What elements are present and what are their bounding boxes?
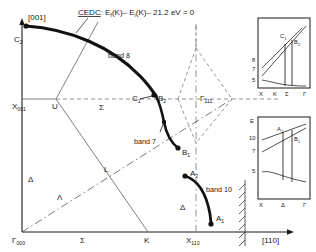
label-lambda: Λ [57,193,63,202]
inset-bottom-band-label-10: 10 [249,135,255,141]
title-k1: (K) [112,8,123,17]
inset-top-band-label-8: 8 [252,57,255,63]
label-band7: band 7 [134,137,156,146]
label-l-point: L [104,165,109,174]
endpoint-c2-dot [23,23,28,28]
inset-bottom-tick-x: X [259,202,263,208]
vertical-axis-label: [001] [28,13,46,22]
label-sigma-mid: Σ [99,103,104,112]
inset-bottom-energy-label: E [250,118,254,124]
title-minus1: – E [123,8,135,17]
inset-bottom-panel [258,117,310,199]
endpoint-a2-dot [182,173,187,178]
horizontal-axis-label: [110] [262,236,279,245]
inset-bottom-tick-delta: Δ [281,202,285,208]
inset-top-band-label-7: 7 [252,66,255,72]
endpoint-b2-dot [151,92,156,97]
inset-top-tick-sigma: Σ [285,91,289,97]
title-rest: : E [101,8,111,17]
inset-top-panel [258,18,310,88]
inset-top-tick-x: X [259,91,263,97]
label-delta-bottom: Δ [180,203,186,212]
inset-bottom-band-label-7: 7 [252,148,255,154]
label-k-bottom: K [144,236,150,245]
title-cedc: CEDC [78,8,101,17]
endpoint-b1-dot [175,145,180,150]
label-band10: band 10 [206,185,232,194]
label-band8: band 8 [108,51,130,60]
label-u: U [52,102,58,111]
label-delta-left: Δ [28,175,34,184]
inset-top-tick-k: K [273,91,277,97]
inset-bottom-band-label-5: 5 [252,168,255,174]
inset-top-band-label-5: 5 [252,77,255,83]
figure-canvas: [001] [110] CEDC: Ef(K)– Ei(K)– 21.2 eV … [0,0,316,252]
title-k2: (K) [136,8,147,17]
endpoint-a1-dot [208,221,213,226]
svg-text:CEDC: Ef(K)– Ei(K)– 21.2 eV =: CEDC: Ef(K)– Ei(K)– 21.2 eV = 0 [78,8,195,18]
title-tail: – 21.2 eV = 0 [146,8,194,17]
label-sigma-bottom: Σ [80,236,85,245]
